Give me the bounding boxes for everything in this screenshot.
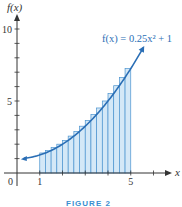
x-tick-label: 5 [128, 176, 133, 187]
riemann-rectangle [57, 144, 63, 173]
riemann-rectangle [85, 121, 91, 173]
riemann-rectangle [119, 77, 125, 173]
y-tick-label: 5 [7, 96, 12, 107]
riemann-rectangle [102, 101, 108, 173]
y-tick-label: 10 [2, 24, 12, 35]
x-axis-arrow-icon [165, 170, 172, 176]
equation-label: f(x) = 0.25x² + 1 [102, 33, 172, 45]
riemann-rectangles [40, 69, 131, 173]
riemann-rectangle [63, 140, 69, 173]
figure-label: FIGURE 2 [66, 199, 111, 207]
riemann-rectangle [125, 69, 131, 173]
x-tick-label: 0 [8, 176, 13, 187]
riemann-rectangle [91, 115, 97, 174]
x-tick-label: 1 [37, 176, 42, 187]
y-axis-arrow-icon [14, 14, 20, 21]
riemann-rectangle [40, 153, 46, 173]
riemann-rectangle [114, 86, 120, 173]
riemann-rectangle [45, 151, 51, 174]
riemann-rectangle [51, 148, 57, 173]
riemann-rectangle [108, 94, 114, 173]
riemann-rectangle [80, 126, 86, 173]
riemann-rectangle [74, 131, 80, 173]
y-axis-label: f(x) [7, 1, 23, 14]
riemann-rectangle [97, 108, 103, 173]
x-axis-label: x [174, 166, 180, 178]
riemann-rectangle [68, 136, 74, 173]
riemann-sum-chart: 015510 f(x) = 0.25x² + 1 f(x) x FIGURE 2 [0, 0, 182, 207]
